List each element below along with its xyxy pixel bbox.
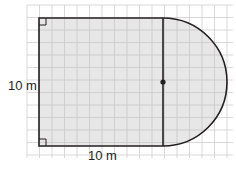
bottom-length-label: 10 m (88, 148, 117, 163)
center-dot (160, 79, 165, 84)
side-length-label: 10 m (8, 78, 37, 93)
composite-shape-fill (39, 18, 227, 146)
